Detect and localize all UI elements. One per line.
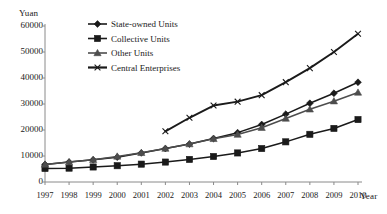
square-marker-icon (355, 116, 361, 122)
cross-marker-icon (355, 31, 361, 37)
square-marker-icon (235, 150, 241, 156)
chart-canvas (0, 0, 387, 214)
square-marker-icon (259, 145, 265, 151)
legend-symbols (88, 21, 107, 71)
square-marker-icon (66, 165, 72, 171)
square-marker-icon (94, 35, 100, 41)
square-marker-icon (283, 139, 289, 145)
series-line (42, 79, 362, 168)
square-marker-icon (138, 161, 144, 167)
diamond-marker-icon (331, 90, 338, 97)
cross-marker-icon (331, 49, 337, 55)
cross-marker-icon (307, 65, 313, 71)
square-marker-icon (307, 131, 313, 137)
triangle-marker-icon (354, 89, 361, 95)
square-marker-icon (210, 153, 216, 159)
series-line (41, 89, 361, 167)
square-marker-icon (162, 159, 168, 165)
square-marker-icon (114, 163, 120, 169)
square-marker-icon (90, 164, 96, 170)
square-marker-icon (331, 125, 337, 131)
line-chart: Yuan Year 010000200003000040000500006000… (0, 0, 387, 214)
diamond-marker-icon (355, 79, 362, 86)
series-line (42, 116, 361, 171)
diamond-marker-icon (94, 21, 101, 28)
cross-marker-icon (283, 79, 289, 85)
cross-marker-icon (162, 128, 168, 134)
series-line (162, 31, 360, 134)
square-marker-icon (186, 156, 192, 162)
